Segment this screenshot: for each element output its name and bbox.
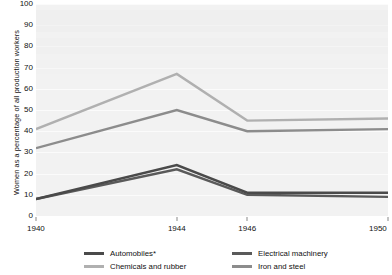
x-axis-tick-labels: 1940194419461950 [0, 0, 392, 275]
legend-swatch [84, 252, 104, 255]
legend-label: Iron and steel [258, 262, 305, 271]
legend-swatch [84, 265, 104, 268]
x-tick-mark [36, 217, 37, 221]
legend-swatch [232, 252, 252, 255]
x-tick-label: 1946 [238, 224, 256, 233]
x-tick-label: 1940 [27, 224, 45, 233]
legend-label: Electrical machinery [258, 249, 328, 258]
legend-item: Electrical machinery [232, 249, 328, 258]
legend-label: Chemicals and rubber [110, 262, 186, 271]
legend-swatch [232, 265, 252, 268]
line-chart: Women as a percentage of all production … [0, 0, 392, 275]
legend-item: Automobiles* [84, 249, 156, 258]
x-tick-label: 1944 [168, 224, 186, 233]
x-tick-mark [247, 217, 248, 221]
x-tick-mark [176, 217, 177, 221]
legend-item: Chemicals and rubber [84, 262, 186, 271]
x-tick-mark [388, 217, 389, 221]
x-tick-label: 1950 [369, 224, 387, 233]
legend-label: Automobiles* [110, 249, 156, 258]
legend-item: Iron and steel [232, 262, 305, 271]
